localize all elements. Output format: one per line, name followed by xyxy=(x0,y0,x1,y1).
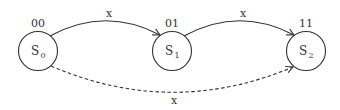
state-s1-name: S xyxy=(165,44,173,58)
transition-s0-s2-label: x xyxy=(171,94,178,107)
state-s2-name: S xyxy=(299,44,307,58)
state-s0-subscript: 0 xyxy=(40,51,45,60)
state-diagram: x x x S 0 00 S 1 01 S 2 11 xyxy=(0,0,340,110)
state-s0: S 0 00 xyxy=(19,17,58,71)
state-s0-code: 00 xyxy=(31,17,45,30)
state-s1: S 1 01 xyxy=(153,17,192,71)
state-s2-subscript: 2 xyxy=(308,51,313,60)
transition-s0-s1 xyxy=(50,21,160,36)
state-s2-code: 11 xyxy=(299,17,313,30)
transition-s1-s2-label: x xyxy=(240,7,247,20)
transition-s0-s1-label: x xyxy=(106,7,113,20)
state-s2: S 2 11 xyxy=(287,17,326,71)
state-s0-name: S xyxy=(31,44,39,58)
state-s1-subscript: 1 xyxy=(174,51,179,60)
transition-s1-s2 xyxy=(184,21,294,36)
state-s1-code: 01 xyxy=(165,17,179,30)
